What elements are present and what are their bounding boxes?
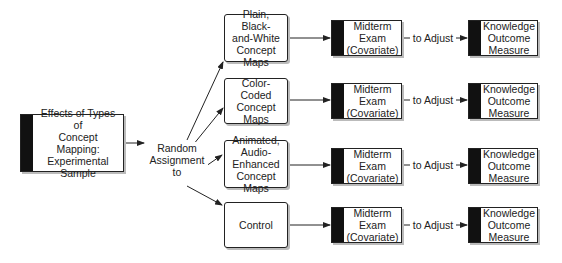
outcome-box-2: Knowledge Outcome Measure: [468, 83, 538, 119]
group-box-color-coded: Color-Coded Concept Maps: [224, 78, 288, 124]
covariate-box-1: Midterm Exam (Covariate): [331, 20, 402, 56]
box-accent-bar: [21, 115, 33, 171]
adjust-label-1: to Adjust: [410, 32, 456, 44]
outcome-box-3: Knowledge Outcome Measure: [468, 148, 538, 184]
adjust-label-3: to Adjust: [410, 159, 456, 171]
box-accent-bar: [469, 149, 481, 183]
box-accent-bar: [469, 208, 481, 242]
box-accent-bar: [469, 84, 481, 118]
group-label: Control: [236, 219, 276, 231]
outcome-box-4: Knowledge Outcome Measure: [468, 207, 538, 243]
adjust-label-2: to Adjust: [410, 94, 456, 106]
box-accent-bar: [469, 21, 481, 55]
outcome-label: Knowledge Outcome Measure: [480, 148, 538, 184]
covariate-label: Midterm Exam (Covariate): [344, 148, 402, 184]
group-box-animated: Animated, Audio- Enhanced Concept Maps: [224, 140, 288, 188]
box-accent-bar: [332, 208, 344, 242]
box-accent-bar: [332, 149, 344, 183]
covariate-box-4: Midterm Exam (Covariate): [331, 207, 402, 243]
covariate-label: Midterm Exam (Covariate): [344, 207, 402, 243]
outcome-label: Knowledge Outcome Measure: [480, 83, 538, 119]
source-box: Effects of Types of Concept Mapping: Exp…: [20, 114, 124, 172]
group-label: Plain, Black- and-White Concept Maps: [225, 8, 287, 68]
random-assignment-label: Random Assignment to: [146, 142, 208, 178]
covariate-label: Midterm Exam (Covariate): [344, 83, 402, 119]
group-box-control: Control: [224, 202, 288, 248]
group-label: Animated, Audio- Enhanced Concept Maps: [225, 134, 287, 194]
box-accent-bar: [332, 84, 344, 118]
box-accent-bar: [332, 21, 344, 55]
group-label: Color-Coded Concept Maps: [225, 77, 287, 125]
outcome-box-1: Knowledge Outcome Measure: [468, 20, 538, 56]
adjust-label-4: to Adjust: [410, 219, 456, 231]
covariate-box-2: Midterm Exam (Covariate): [331, 83, 402, 119]
outcome-label: Knowledge Outcome Measure: [480, 207, 538, 243]
covariate-label: Midterm Exam (Covariate): [344, 20, 402, 56]
covariate-box-3: Midterm Exam (Covariate): [331, 148, 402, 184]
group-box-plain: Plain, Black- and-White Concept Maps: [224, 14, 288, 62]
source-label: Effects of Types of Concept Mapping: Exp…: [33, 107, 123, 179]
outcome-label: Knowledge Outcome Measure: [480, 20, 538, 56]
